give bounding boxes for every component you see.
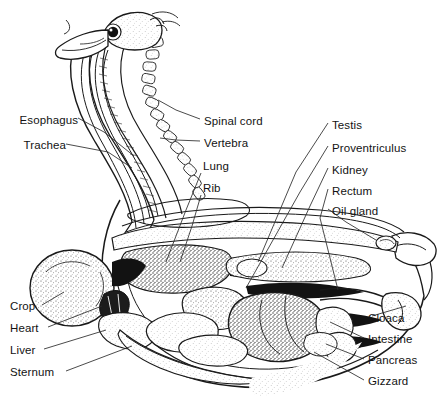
label-cloaca: Cloaca: [368, 313, 404, 325]
label-rectum: Rectum: [332, 186, 372, 198]
label-esophagus: Esophagus: [20, 115, 78, 127]
label-liver: Liver: [10, 345, 35, 357]
label-kidney: Kidney: [332, 165, 368, 177]
label-lung: Lung: [203, 161, 229, 173]
label-proventriculus: Proventriculus: [332, 143, 406, 155]
pancreas: [304, 333, 337, 356]
label-heart: Heart: [10, 323, 39, 335]
label-rib: Rib: [203, 183, 221, 195]
label-crop: Crop: [10, 301, 35, 313]
label-intestine: Intestine: [368, 334, 412, 346]
label-vertebra: Vertebra: [204, 138, 248, 150]
testis: [237, 259, 267, 277]
oil-gland: [376, 236, 396, 250]
label-sternum: Sternum: [10, 367, 54, 379]
label-pancreas: Pancreas: [368, 355, 417, 367]
label-gizzard: Gizzard: [368, 376, 408, 388]
bird-anatomy-figure: Esophagus Trachea Spinal cord Vertebra L…: [0, 0, 439, 410]
label-testis: Testis: [332, 120, 362, 132]
label-oil-gland: Oil gland: [332, 206, 378, 218]
label-trachea: Trachea: [24, 140, 66, 152]
label-spinal-cord: Spinal cord: [204, 116, 263, 128]
